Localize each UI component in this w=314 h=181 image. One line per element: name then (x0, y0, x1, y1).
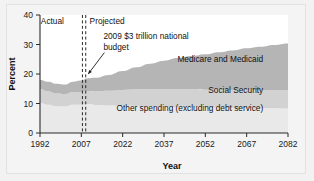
budget-callout-line2: budget (103, 42, 129, 52)
x-tick-label: 1992 (31, 139, 50, 149)
y-axis-title: Percent (7, 57, 17, 90)
budget-callout-line1: 2009 $3 trillion national (103, 31, 188, 41)
stacked-area-chart: 010203040 1992200720222037205220672082 Y… (0, 0, 314, 181)
x-axis-title: Year (162, 161, 182, 171)
figure-container: 010203040 1992200720222037205220672082 Y… (0, 0, 314, 181)
x-tick-label: 2022 (113, 139, 132, 149)
band-label-other-spending: Other spending (excluding debt service) (117, 103, 264, 113)
y-tick-label: 10 (24, 99, 34, 109)
band-label-social-security: Social Security (208, 85, 264, 95)
y-tick-label: 40 (24, 10, 34, 20)
y-tick-label: 20 (24, 69, 34, 79)
x-tick-label: 2067 (237, 139, 256, 149)
projected-region-label: Projected (90, 16, 125, 26)
x-tick-label: 2007 (72, 139, 91, 149)
x-axis-ticks: 1992200720222037205220672082 (31, 133, 298, 149)
y-tick-label: 30 (24, 40, 34, 50)
y-axis-ticks: 010203040 (24, 10, 40, 138)
x-tick-label: 2082 (279, 139, 298, 149)
actual-region-label: Actual (41, 16, 64, 26)
x-tick-label: 2037 (155, 139, 174, 149)
x-tick-label: 2052 (196, 139, 215, 149)
y-tick-label: 0 (28, 128, 33, 138)
band-label-medicare-and-medicaid: Medicare and Medicaid (177, 54, 263, 64)
